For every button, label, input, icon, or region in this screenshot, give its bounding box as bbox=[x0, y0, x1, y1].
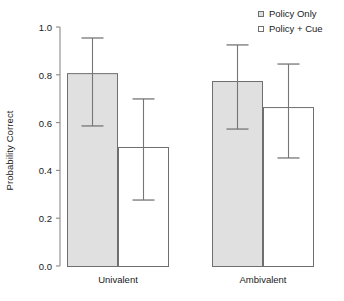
y-tick-label: 0.4 bbox=[28, 165, 52, 176]
y-tick-label: 0.2 bbox=[28, 213, 52, 224]
bars-group bbox=[68, 38, 314, 267]
y-tick-label: 0.0 bbox=[28, 261, 52, 272]
y-axis bbox=[56, 27, 60, 266]
y-tick-label: 1.0 bbox=[28, 22, 52, 33]
x-category-label-univalent: Univalent bbox=[98, 274, 138, 285]
bar-chart: Probability Correct Policy Only Policy +… bbox=[0, 0, 344, 301]
plot-area bbox=[0, 0, 344, 301]
y-tick-label: 0.6 bbox=[28, 117, 52, 128]
y-tick-label: 0.8 bbox=[28, 69, 52, 80]
x-category-label-ambivalent: Ambivalent bbox=[240, 274, 287, 285]
